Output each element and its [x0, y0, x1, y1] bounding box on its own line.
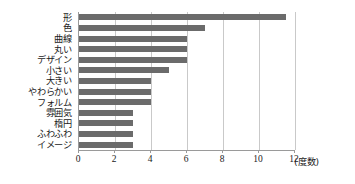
bar	[79, 89, 151, 95]
bar-row	[79, 86, 295, 97]
value-axis: (度数) 024681012	[78, 150, 294, 170]
category-label: 色	[0, 23, 75, 34]
bar-row	[79, 33, 295, 44]
tick-label: 2	[112, 154, 117, 164]
tick-mark	[78, 150, 79, 153]
tick-mark	[186, 150, 187, 153]
bar-row	[79, 54, 295, 65]
bar	[79, 120, 133, 126]
bar	[79, 46, 187, 52]
tick-mark	[294, 150, 295, 153]
bar	[79, 14, 286, 20]
bar	[79, 25, 205, 31]
bar-row	[79, 118, 295, 129]
category-label: 雰囲気	[0, 107, 75, 118]
bar-series	[79, 12, 295, 150]
tick-mark	[114, 150, 115, 153]
plot-area	[78, 12, 295, 151]
bar-row	[79, 97, 295, 108]
category-label: 小さい	[0, 65, 75, 76]
category-label: フォルム	[0, 97, 75, 108]
gridline	[295, 12, 296, 150]
bar-row	[79, 129, 295, 140]
bar	[79, 67, 169, 73]
bar-row	[79, 76, 295, 87]
category-label: やわらかい	[0, 86, 75, 97]
category-label: 大きい	[0, 76, 75, 87]
category-label: 形	[0, 12, 75, 23]
bar-row	[79, 65, 295, 76]
tick-label: 6	[184, 154, 189, 164]
tick-mark	[150, 150, 151, 153]
tick-label: 10	[253, 154, 263, 164]
bar	[79, 99, 151, 105]
bar	[79, 78, 151, 84]
tick-label: 0	[76, 154, 81, 164]
bar-chart: 形 色 曲線 丸い デザイン 小さい 大きい やわらかい フォルム 雰囲気 楕円…	[0, 0, 355, 184]
tick-label: 12	[289, 154, 299, 164]
category-label: イメージ	[0, 139, 75, 150]
bar	[79, 110, 133, 116]
bar-row	[79, 44, 295, 55]
category-label: 楕円	[0, 118, 75, 129]
category-label: 丸い	[0, 44, 75, 55]
bar-row	[79, 12, 295, 23]
bar	[79, 142, 133, 148]
bar	[79, 57, 187, 63]
bar-row	[79, 23, 295, 34]
tick-label: 8	[220, 154, 225, 164]
tick-mark	[222, 150, 223, 153]
category-label: 曲線	[0, 33, 75, 44]
bar	[79, 36, 187, 42]
tick-label: 4	[148, 154, 153, 164]
category-label: ふわふわ	[0, 129, 75, 140]
bar-row	[79, 139, 295, 150]
bar-row	[79, 107, 295, 118]
tick-mark	[258, 150, 259, 153]
bar	[79, 131, 133, 137]
category-label: デザイン	[0, 54, 75, 65]
category-axis-labels: 形 色 曲線 丸い デザイン 小さい 大きい やわらかい フォルム 雰囲気 楕円…	[0, 12, 75, 150]
